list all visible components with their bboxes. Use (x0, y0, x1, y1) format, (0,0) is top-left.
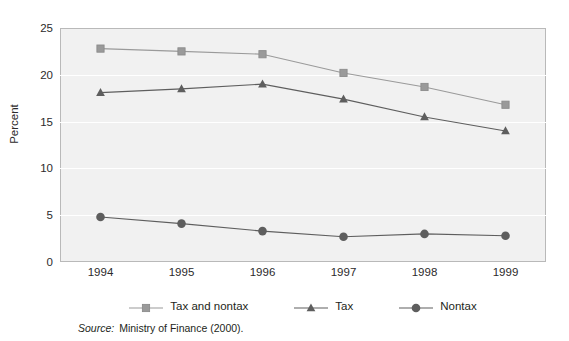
series-tax (96, 80, 510, 135)
data-point (258, 227, 267, 236)
legend-item-tax[interactable]: Tax (294, 300, 353, 312)
data-point (97, 45, 104, 52)
x-tick-label: 1999 (476, 266, 536, 278)
data-point (501, 231, 510, 240)
data-point (339, 232, 348, 241)
data-point (259, 51, 266, 58)
chart-legend: Tax and nontaxTaxNontax (60, 296, 546, 316)
legend-label: Tax (335, 300, 353, 312)
data-point (502, 101, 509, 108)
data-point (420, 230, 429, 239)
legend-item-tax-and-nontax[interactable]: Tax and nontax (129, 300, 248, 312)
source-value: Ministry of Finance (2000). (119, 322, 243, 334)
data-point (96, 213, 105, 222)
legend-label: Tax and nontax (170, 300, 248, 312)
legend-triangle-icon (294, 300, 328, 312)
x-tick-label: 1997 (314, 266, 374, 278)
legend-square-icon (129, 300, 163, 312)
series-line (101, 49, 506, 105)
data-point (178, 48, 185, 55)
legend-item-nontax[interactable]: Nontax (399, 300, 476, 312)
y-tick-label: 25 (7, 22, 53, 34)
source-note: Source:Ministry of Finance (2000). (78, 322, 244, 334)
series-line (101, 217, 506, 237)
series-nontax (96, 213, 510, 241)
series-layer (60, 28, 546, 262)
source-label: Source: (78, 322, 114, 334)
x-tick-label: 1996 (233, 266, 293, 278)
x-tick-label: 1995 (152, 266, 212, 278)
figure-container: 0510152025 Percent 199419951996199719981… (0, 0, 569, 341)
y-axis-label: Percent (8, 74, 20, 174)
data-point (340, 69, 347, 76)
y-tick-label: 0 (7, 256, 53, 268)
y-tick-label: 5 (7, 209, 53, 221)
data-point (258, 80, 267, 88)
data-point (421, 83, 428, 90)
x-tick-label: 1998 (395, 266, 455, 278)
x-axis-ticks: 199419951996199719981999 (60, 266, 546, 284)
plot-area (60, 28, 546, 262)
legend-label: Nontax (440, 300, 476, 312)
x-tick-label: 1994 (71, 266, 131, 278)
legend-circle-icon (399, 300, 433, 312)
data-point (177, 219, 186, 228)
series-tax-and-nontax (97, 45, 509, 108)
